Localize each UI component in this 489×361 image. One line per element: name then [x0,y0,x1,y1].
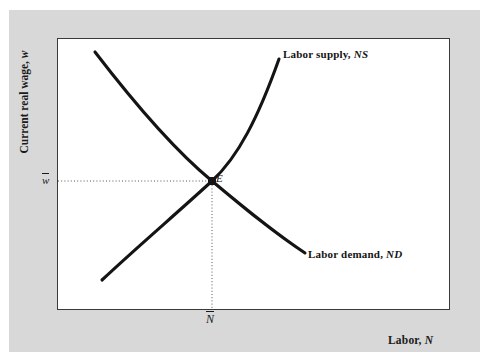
chart-graphics [0,0,489,361]
labor-supply-label: Labor supply, NS [283,48,368,60]
labor-demand-curve [95,52,305,253]
labor-demand-label: Labor demand, ND [308,248,402,260]
labor-supply-label-text: Labor supply, [283,48,354,60]
x-axis-title-variable: N [425,334,434,346]
y-axis-tick-label-wbar: w [42,174,49,186]
figure-canvas: Current real wage, w Labor, N w N Labor … [0,0,489,361]
x-axis-title: Labor, N [388,334,433,346]
nbar-glyph: N [206,312,214,327]
y-axis-title-variable: w [18,50,30,58]
labor-demand-label-text: Labor demand, [308,248,386,260]
x-axis-title-text: Labor, [388,334,425,346]
labor-demand-label-variable: ND [386,248,402,260]
y-axis-title: Current real wage, w [16,22,32,182]
equilibrium-point-marker [208,177,216,185]
wbar-glyph: w [42,174,49,186]
labor-supply-label-variable: NS [354,48,368,60]
equilibrium-point-label: E [216,172,223,184]
x-axis-tick-label-nbar: N [206,312,214,327]
y-axis-title-text: Current real wage, [18,58,30,153]
